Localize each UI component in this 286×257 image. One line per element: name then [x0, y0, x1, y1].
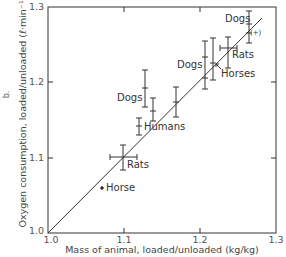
x-axis-label: Mass of animal, loaded/unloaded (kg/kg) [30, 244, 286, 255]
annotation-humans: Humans [144, 122, 185, 132]
point-horse [101, 187, 104, 190]
y-axis-label: Oxygen consumption, loaded/unloaded (ℓ·m… [17, 8, 28, 228]
point-dogs-upper [202, 41, 208, 89]
panel-label: b. [2, 91, 11, 99]
point-unlabeled-1 [150, 98, 156, 121]
annotation-rats-high: Rats [232, 50, 254, 60]
annotation-dogs-top: Dogs [225, 14, 250, 24]
point-dogs-mid [142, 70, 148, 107]
point-horses [210, 38, 216, 80]
annotation-horses: Horses [221, 69, 255, 79]
annotation-rats-low: Rats [127, 160, 149, 170]
scatter-chart [0, 0, 286, 257]
annotation-horse: Horse [106, 183, 135, 193]
point-unlabeled-2 [173, 87, 179, 117]
annotation-paren: (+) [250, 28, 261, 38]
annotation-dogs-mid: Dogs [117, 93, 142, 103]
annotation-dogs-upper: Dogs [177, 60, 202, 70]
point-humans [136, 118, 142, 135]
